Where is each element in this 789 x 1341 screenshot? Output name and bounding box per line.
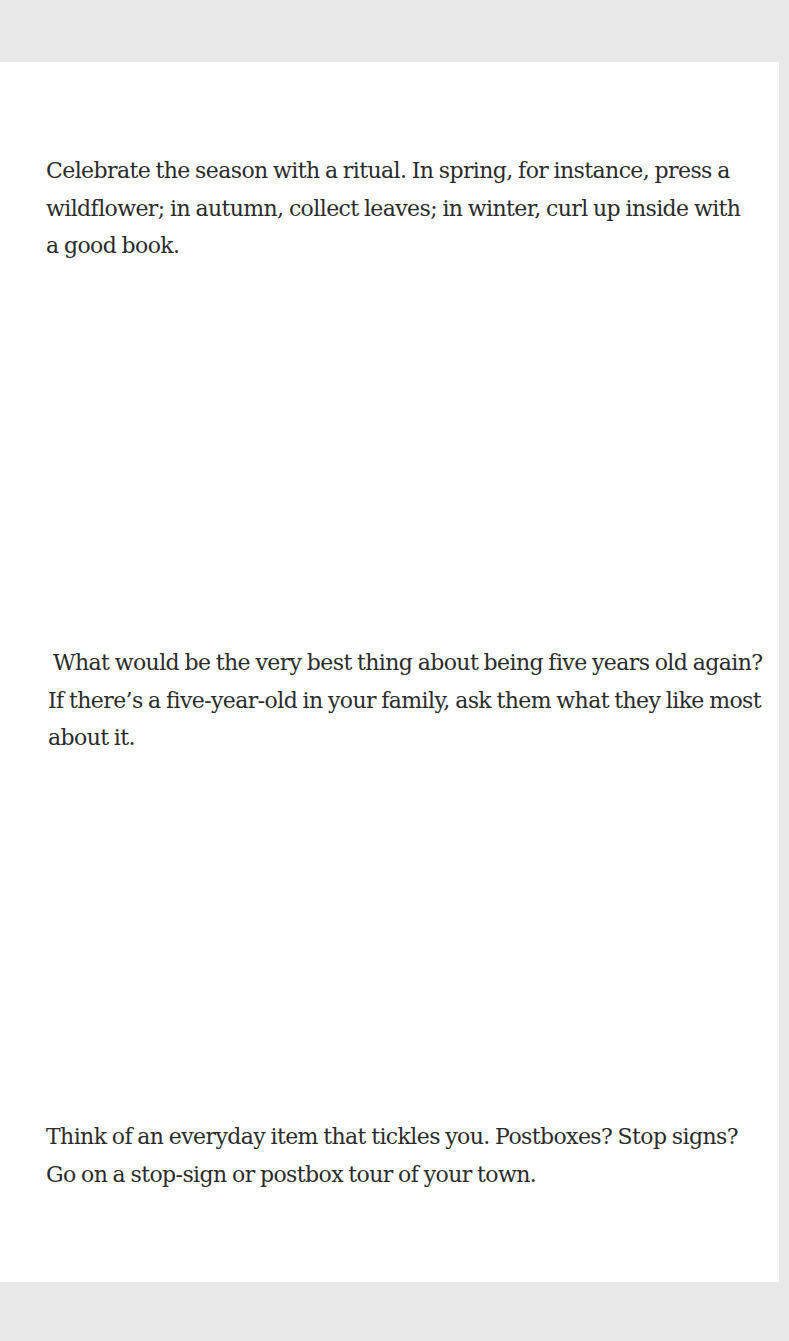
- paragraph-seasonal-ritual: Celebrate the season with a ritual. In s…: [46, 152, 746, 265]
- document-page: Celebrate the season with a ritual. In s…: [0, 62, 779, 1282]
- paragraph-everyday-item: Think of an everyday item that tickles y…: [46, 1118, 746, 1193]
- paragraph-five-years-old: What would be the very best thing about …: [48, 644, 768, 757]
